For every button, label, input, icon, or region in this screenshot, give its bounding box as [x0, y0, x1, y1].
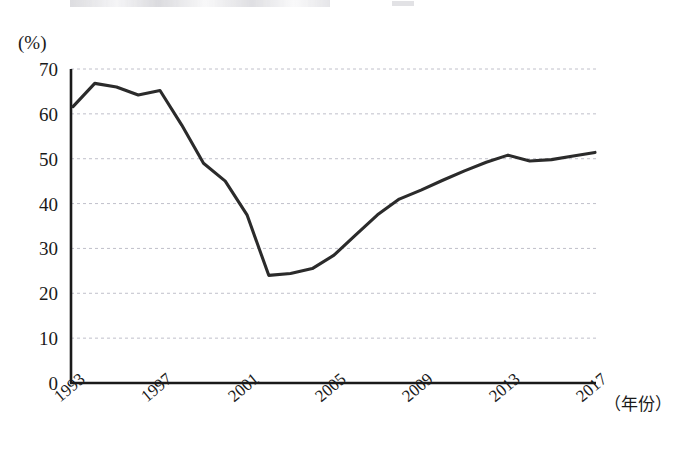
axis-lines [70, 69, 596, 383]
plot-area [0, 0, 688, 457]
gridlines [71, 69, 596, 338]
data-series-line [73, 83, 595, 275]
chart-figure: (%) 010203040506070 19931997200120052009… [0, 0, 688, 457]
